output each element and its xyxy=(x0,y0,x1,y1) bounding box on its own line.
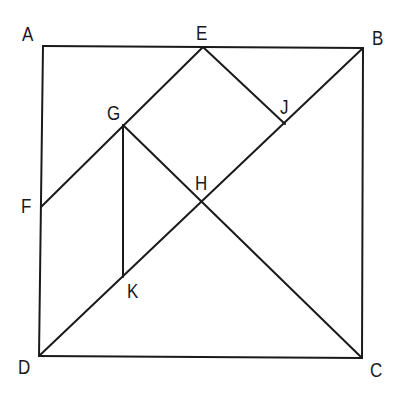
label-H: H xyxy=(195,173,207,193)
label-A: A xyxy=(22,24,33,44)
segment-DA xyxy=(39,46,43,356)
label-C: C xyxy=(370,360,382,380)
label-J: J xyxy=(280,97,289,117)
label-F: F xyxy=(21,196,31,216)
segment-BC xyxy=(362,48,363,358)
geometry-diagram xyxy=(0,0,405,396)
label-G: G xyxy=(107,103,120,123)
label-E: E xyxy=(196,23,207,43)
label-D: D xyxy=(18,357,30,377)
label-B: B xyxy=(372,28,383,48)
segment-EJ xyxy=(203,47,285,124)
label-K: K xyxy=(127,281,138,301)
segment-CD xyxy=(39,356,362,358)
